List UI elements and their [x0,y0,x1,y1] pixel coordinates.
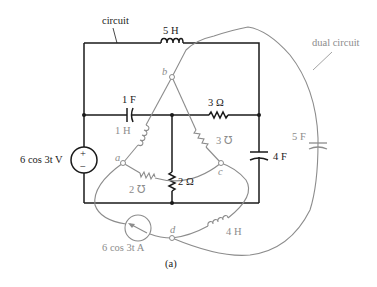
label-node-c: c [218,166,223,177]
circuit-diagram: circuit 5 H 1 F 3 Ω 2 Ω 4 F 6 cos 3t V +… [0,0,377,287]
dual-wire-b-to-1h [146,77,172,125]
label-capacitor-4f: 4 F [273,151,287,162]
dual-wire-3mho-to-c [206,147,221,163]
label-conductance-3mho: 3 ℧ [216,135,232,146]
junction-dot [257,113,261,117]
voltage-source-plus: + [80,148,86,159]
dual-callout-label: dual circuit [312,37,360,48]
dual-callout-line [313,52,332,70]
label-conductance-2mho: 2 ℧ [129,184,145,195]
label-resistor-3ohm: 3 Ω [208,97,224,108]
label-capacitor-1f: 1 F [122,94,136,105]
label-inductor-1h: 1 H [115,125,131,136]
junction-dot [170,201,174,205]
dual-wire-d-to-4h [172,226,208,238]
voltage-source-minus: − [80,161,86,172]
figure-caption: (a) [165,258,177,270]
original-circuit [71,28,268,205]
dual-wire-4h-to-c [221,163,249,218]
dual-wire-b-to-3mho [172,77,196,130]
inductor-4h [208,216,228,226]
circuit-callout-label: circuit [102,15,129,26]
conductance-3mho [194,130,208,147]
node-a [121,161,126,166]
conductance-2mho [140,172,155,179]
label-node-a: a [115,152,120,163]
label-capacitor-5f: 5 F [292,131,306,142]
dual-wire-a-to-source [95,163,126,224]
label-voltage-source: 6 cos 3t V [20,154,63,165]
label-inductor-5h: 5 H [163,25,179,36]
junction-dot [82,113,86,117]
resistor-3ohm [209,112,228,118]
node-b [170,75,175,80]
dual-wire-source-to-d [150,234,172,238]
label-resistor-2ohm: 2 Ω [178,176,194,187]
label-current-source: 6 cos 3t A [102,242,145,253]
dual-wire-1h-to-a [123,145,138,163]
node-d [170,236,175,241]
label-node-b: b [162,66,167,77]
label-node-d: d [170,224,176,235]
inductor-1h [138,125,149,145]
junction-dot [170,113,174,117]
node-c [219,161,224,166]
circuit-callout-line [113,28,117,43]
label-inductor-4h: 4 H [226,226,242,237]
resistor-2ohm [169,172,175,191]
inductor-5h [161,39,183,44]
